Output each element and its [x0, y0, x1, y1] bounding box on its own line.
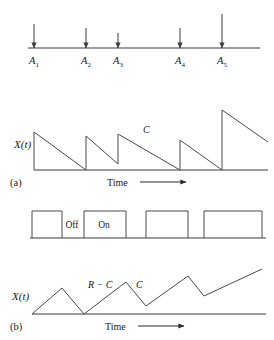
state-pulse-4 [204, 211, 262, 238]
panel-b-y-axis-label: X(t) [11, 290, 29, 303]
state-label-off: Off [65, 220, 79, 230]
arrival-label-a3: A3 [112, 55, 123, 69]
state-annotations: OffOn [65, 220, 110, 230]
panel-a-y-axis-label: X(t) [13, 138, 31, 151]
panel-a-sawtooth-curve [34, 110, 268, 170]
figure-container: A1A2A3A4A5 X(t) (a) Time C OffOn X(t) (b… [0, 0, 274, 340]
panel-b-time-label: Time [105, 321, 126, 332]
state-label-on: On [98, 220, 110, 230]
arrival-timeline: A1A2A3A4A5 [28, 14, 260, 69]
arrival-label-a2: A2 [80, 55, 91, 69]
arrival-label-a5: A5 [216, 55, 227, 69]
arrival-label-a1: A1 [28, 55, 39, 69]
panel-a-letter: (a) [10, 177, 22, 189]
panel-b-annotations: R − CC [87, 279, 143, 290]
state-pulse-1 [32, 211, 62, 238]
panel-b-slope-label: C [136, 279, 143, 290]
state-pulse-3 [146, 211, 188, 238]
panel-b-letter: (b) [10, 321, 23, 333]
panel-b-slope-label: R − C [87, 279, 113, 290]
arrival-arrow-group [34, 14, 222, 48]
panel-b-triangular-curve [32, 269, 262, 314]
panel-a-slope-label: C [143, 124, 150, 135]
panel-a-annotations: C [143, 124, 150, 135]
panel-a-time-label: Time [107, 177, 128, 188]
arrival-label-a4: A4 [174, 55, 185, 69]
arrival-label-group: A1A2A3A4A5 [28, 55, 227, 69]
panel-a: X(t) (a) Time C [10, 110, 268, 189]
panel-b: X(t) (b) Time R − CC [10, 269, 266, 333]
figure-svg: A1A2A3A4A5 X(t) (a) Time C OffOn X(t) (b… [0, 0, 274, 340]
panel-middle-state: OffOn [30, 211, 266, 238]
